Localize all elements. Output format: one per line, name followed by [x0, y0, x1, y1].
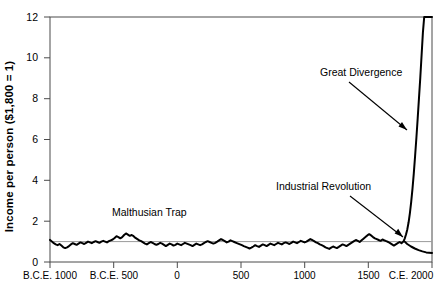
- y-tick-label-10: 10: [12, 51, 38, 63]
- annotation-industrial-revolution: Industrial Revolution: [276, 180, 371, 192]
- x-tick-label-0: 0: [157, 270, 197, 281]
- annotation-great-divergence: Great Divergence: [320, 66, 402, 78]
- y-tick-label-12: 12: [12, 11, 38, 23]
- x-tick-label-500: 500: [218, 270, 264, 281]
- y-axis-title: Income per person ($1,800 = 1): [0, 0, 18, 293]
- x-tick-label-ce-2000: C.E. 2000: [374, 270, 448, 281]
- y-axis-ticks: [44, 17, 50, 262]
- annotation-malthusian-trap: Malthusian Trap: [112, 206, 187, 218]
- x-axis-ticks: [50, 262, 432, 268]
- chart-figure: Income per person ($1,800 = 1) 12 10 8 6…: [0, 0, 448, 293]
- y-tick-label-2: 2: [12, 215, 38, 227]
- y-tick-label-0: 0: [12, 256, 38, 268]
- chart-canvas: [0, 0, 448, 293]
- y-tick-label-4: 4: [12, 174, 38, 186]
- plot-frame: [50, 17, 432, 262]
- x-tick-label-1000: 1000: [280, 270, 329, 281]
- y-tick-label-8: 8: [12, 92, 38, 104]
- y-tick-label-6: 6: [12, 133, 38, 145]
- x-tick-label-bce-500: B.C.E. 500: [68, 270, 160, 281]
